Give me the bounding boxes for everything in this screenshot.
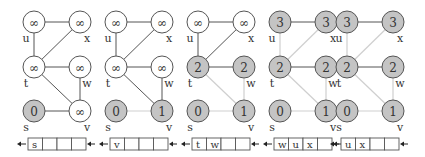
arrow-left-icon [17,142,21,147]
queue: v [99,138,177,150]
node-distance: ∞ [29,16,39,30]
node-v: 1v [233,100,255,134]
node-distance: 2 [322,61,330,75]
node-distance: 3 [276,16,284,30]
node-distance: ∞ [29,61,39,75]
panel-step-5: 3u3x2t2w0s1vux [330,11,408,150]
node-x: 3x [382,11,404,45]
node-label: x [397,32,404,45]
node-s: 0s [105,100,127,134]
node-label: w [395,77,405,90]
node-w: 2w [315,56,338,90]
node-label: t [270,77,275,90]
queue: tw [181,138,259,150]
queue-cell [236,138,251,150]
node-t: 2t [187,56,209,90]
queue-item: w [278,139,287,150]
bfs-diagram: ∞u∞x∞t∞w0s∞vs∞u∞x∞t∞w0s1vv∞u∞x2t2w0s1vtw… [0,0,425,157]
node-label: s [336,121,342,134]
node-label: v [396,121,404,134]
arrow-left-icon [87,142,91,147]
node-distance: 0 [343,105,351,119]
node-label: w [82,77,92,90]
queue-cell [43,138,58,150]
arrow-left-icon [400,142,404,147]
node-v: 1v [315,100,337,134]
node-v: 1v [151,100,173,134]
node-t: ∞t [23,56,45,90]
queue-item: s [32,139,37,150]
queue-item: v [113,139,120,150]
node-distance: 3 [389,16,397,30]
node-label: v [247,121,255,134]
node-distance: ∞ [111,61,121,75]
node-w: 2w [233,56,256,90]
queue: s [17,138,95,150]
node-x: ∞x [151,11,173,45]
node-s: 0s [269,100,291,134]
node-label: u [104,32,111,45]
queue-cell [139,138,154,150]
node-distance: ∞ [239,16,249,30]
node-t: 2t [336,56,358,90]
node-label: v [165,121,173,134]
arrow-left-icon [169,142,173,147]
node-t: ∞t [105,56,127,90]
arrow-left-icon [99,142,103,147]
panel-step-1: ∞u∞x∞t∞w0s∞vs [17,11,95,150]
queue-item: u [345,139,352,150]
queue: ux [330,138,408,150]
node-label: v [83,121,91,134]
node-label: u [186,32,193,45]
node-distance: 0 [112,105,120,119]
node-w: ∞w [69,56,92,90]
queue-item: u [293,139,300,150]
node-label: s [105,121,111,134]
queue-cell [370,138,385,150]
node-x: 3x [315,11,337,45]
node-label: t [24,77,29,90]
node-distance: 1 [322,105,330,119]
node-w: ∞w [151,56,174,90]
node-x: ∞x [233,11,255,45]
node-distance: ∞ [157,16,167,30]
node-v: 1v [382,100,404,134]
node-distance: 2 [194,61,202,75]
node-s: 0s [23,100,45,134]
queue-item: w [211,139,220,150]
node-distance: 2 [343,61,351,75]
node-distance: 3 [322,16,330,30]
node-label: s [187,121,193,134]
node-label: w [246,77,256,90]
queue-cell [72,138,87,150]
node-x: ∞x [69,11,91,45]
node-distance: 1 [389,105,397,119]
queue-cell [385,138,400,150]
node-distance: 2 [389,61,397,75]
node-distance: ∞ [75,61,85,75]
queue-item: x [307,139,313,150]
node-distance: 2 [276,61,284,75]
node-label: t [337,77,342,90]
node-label: u [268,32,275,45]
arrow-left-icon [263,142,267,147]
node-distance: 3 [343,16,351,30]
panel-step-2: ∞u∞x∞t∞w0s1vv [99,11,177,150]
node-distance: ∞ [111,16,121,30]
arrow-left-icon [251,142,255,147]
node-label: x [84,32,91,45]
queue-item: t [196,139,200,150]
node-v: ∞v [69,100,91,134]
queue-item: x [360,139,366,150]
node-distance: ∞ [75,105,85,119]
node-distance: ∞ [75,16,85,30]
node-t: 2t [269,56,291,90]
node-label: t [188,77,193,90]
node-distance: ∞ [193,16,203,30]
node-distance: ∞ [157,61,167,75]
queue: wux [263,138,341,150]
queue-cell [154,138,169,150]
arrow-left-icon [181,142,185,147]
node-label: t [106,77,111,90]
queue-cell [318,138,333,150]
